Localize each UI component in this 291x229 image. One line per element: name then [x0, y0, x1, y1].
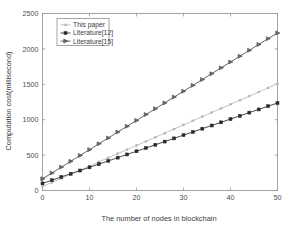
data-marker [182, 134, 185, 137]
data-marker [267, 87, 270, 90]
data-marker [192, 119, 195, 122]
data-marker [50, 179, 53, 182]
data-marker [41, 185, 44, 188]
data-marker [145, 140, 148, 143]
y-tick-label: 2500 [23, 9, 39, 18]
data-marker [210, 111, 213, 114]
x-axis-label: The number of nodes in blockchain [101, 214, 216, 223]
data-marker [69, 172, 72, 175]
data-marker [248, 95, 251, 98]
data-marker [88, 166, 91, 169]
data-marker [276, 102, 279, 105]
data-marker [163, 140, 166, 143]
x-tick-label: 20 [133, 193, 141, 202]
data-marker [97, 163, 100, 166]
y-axis-label: Computation cost(millisecond) [4, 52, 13, 151]
data-marker [154, 143, 157, 146]
data-marker [201, 115, 204, 118]
data-marker [173, 137, 176, 140]
x-tick-label: 40 [227, 193, 235, 202]
legend-label: Literature[15] [73, 38, 113, 46]
y-tick-label: 2000 [23, 45, 39, 54]
data-marker [41, 182, 44, 185]
data-marker [229, 103, 232, 106]
data-marker [126, 153, 129, 156]
y-tick-label: 1500 [23, 80, 39, 89]
data-marker [79, 169, 82, 172]
y-tick-label: 500 [27, 151, 39, 160]
data-marker [257, 108, 260, 111]
data-marker [107, 156, 110, 159]
data-marker [201, 127, 204, 130]
x-tick-label: 10 [86, 193, 94, 202]
y-tick-label: 0 [35, 186, 39, 195]
x-tick-label: 0 [41, 193, 45, 202]
chart-legend: This paperLiterature[12]Literature[15] [57, 19, 113, 46]
data-marker [257, 91, 260, 94]
data-marker [64, 24, 67, 27]
data-marker [116, 156, 119, 159]
data-marker [220, 121, 223, 124]
data-marker [210, 124, 213, 127]
data-marker [229, 118, 232, 121]
data-marker [276, 82, 279, 85]
y-tick-label: 1000 [23, 115, 39, 124]
chart-figure: 01020304050 05001000150020002500 The num… [0, 0, 291, 229]
data-marker [107, 159, 110, 162]
data-marker [220, 107, 223, 110]
legend-label: This paper [73, 21, 106, 29]
data-marker [64, 32, 67, 35]
data-marker [163, 132, 166, 135]
x-tick-label: 50 [274, 193, 282, 202]
data-marker [248, 111, 251, 114]
data-marker [191, 130, 194, 133]
line-chart: 01020304050 05001000150020002500 The num… [0, 0, 291, 229]
data-marker [238, 114, 241, 117]
data-marker [126, 148, 129, 151]
data-marker [173, 128, 176, 131]
data-marker [182, 124, 185, 127]
data-marker [144, 147, 147, 150]
data-marker [267, 105, 270, 108]
x-tick-label: 30 [180, 193, 188, 202]
data-marker [154, 136, 157, 139]
data-marker [116, 152, 119, 155]
data-marker [239, 99, 242, 102]
legend-label: Literature[12] [73, 29, 113, 37]
data-marker [135, 144, 138, 147]
data-marker [135, 150, 138, 153]
data-marker [60, 175, 63, 178]
